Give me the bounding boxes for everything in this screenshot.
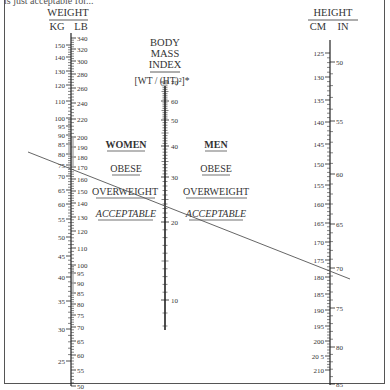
- height-in-tick-label: 70: [336, 265, 344, 273]
- weight-kg-tick-label: 50: [58, 234, 66, 242]
- weight-lb-tick-label: 120: [77, 228, 88, 236]
- weight-lb-tick-label: 140: [77, 200, 88, 208]
- height-cm-scale: 1251301351401451501551601651701751801851…: [312, 50, 330, 375]
- weight-kg-tick-label: 85: [58, 141, 66, 149]
- weight-lb-tick-label: 320: [77, 46, 88, 54]
- weight-kg-tick-label: 130: [55, 68, 66, 76]
- height-in-tick-label: 75: [336, 305, 344, 313]
- height-cm-tick-label: 210: [314, 367, 325, 375]
- weight-lb-tick-label: 90: [77, 280, 85, 288]
- weight-kg-tick-label: 25: [58, 358, 66, 366]
- weight-kg-tick-label: 30: [58, 326, 66, 334]
- height-cm-tick-label: 150: [314, 161, 325, 169]
- height-cm-tick-label: 190: [314, 307, 325, 315]
- weight-lb-tick-label: 80: [77, 301, 85, 309]
- weight-lb-tick-label: 50: [77, 383, 85, 390]
- weight-lb-tick-label: 60: [77, 352, 85, 360]
- bmi-title-line-2: MASS: [151, 48, 180, 59]
- weight-lb-tick-label: 70: [77, 324, 85, 332]
- weight-kg-tick-label: 70: [58, 173, 66, 181]
- height-cm-tick-label: 200: [314, 338, 325, 346]
- height-cm-tick-label: 185: [314, 291, 325, 299]
- bmi-tick-label: 10: [171, 297, 179, 305]
- weight-kg-tick-label: 100: [55, 115, 66, 123]
- weight-kg-tick-label: 90: [58, 132, 66, 140]
- women-overweight: OVERWEIGHT: [92, 186, 158, 197]
- bmi-header: BODY MASS INDEX [WT / (HT)²]*: [135, 37, 190, 87]
- weight-kg-tick-label: 95: [58, 123, 66, 131]
- weight-header: WEIGHT KG LB: [47, 7, 89, 32]
- weight-lb-tick-label: 300: [77, 58, 88, 66]
- weight-title: WEIGHT: [47, 7, 89, 18]
- height-cm-tick-label: 145: [314, 141, 325, 149]
- bmi-tick-label: 70: [171, 79, 179, 87]
- weight-lb-tick-label: 110: [77, 245, 88, 253]
- weight-kg-tick-label: 80: [58, 151, 66, 159]
- weight-lb-tick-label: 340: [77, 35, 88, 43]
- weight-lb-tick-label: 170: [77, 164, 88, 172]
- height-in-tick-label: 55: [336, 118, 344, 126]
- height-in-scale: 5055606570758085: [330, 59, 344, 389]
- weight-lb-label: LB: [74, 21, 87, 32]
- bmi-formula: [WT / (HT)²]*: [135, 76, 190, 87]
- weight-kg-tick-label: 150: [55, 42, 66, 50]
- bmi-nomogram: WEIGHT KG LB 150140130120110100959085807…: [0, 0, 390, 390]
- women-title: WOMEN: [105, 139, 147, 150]
- weight-lb-tick-label: 130: [77, 214, 88, 222]
- height-in-tick-label: 50: [336, 59, 344, 67]
- height-title: HEIGHT: [313, 7, 353, 18]
- height-in-tick-label: 65: [336, 221, 344, 229]
- women-obese: OBESE: [110, 163, 142, 174]
- weight-lb-tick-label: 150: [77, 188, 88, 196]
- height-in-tick-label: 85: [336, 381, 344, 389]
- weight-kg-tick-label: 45: [58, 253, 66, 261]
- height-cm-tick-label: 155: [314, 182, 325, 190]
- height-in-label: IN: [337, 21, 348, 32]
- height-cm-tick-label: 130: [314, 74, 325, 82]
- bmi-tick-label: 20: [171, 219, 179, 227]
- height-cm-tick-label: 165: [314, 220, 325, 228]
- height-header: HEIGHT CM IN: [308, 7, 358, 32]
- men-title: MEN: [204, 139, 228, 150]
- weight-lb-tick-label: 220: [77, 116, 88, 124]
- height-in-tick-label: 80: [336, 344, 344, 352]
- height-cm-tick-label: 195: [314, 323, 325, 331]
- height-cm-tick-label: 175: [314, 257, 325, 265]
- weight-lb-tick-label: 240: [77, 100, 88, 108]
- weight-lb-tick-label: 200: [77, 134, 88, 142]
- bmi-title-line-3: INDEX: [149, 59, 182, 70]
- weight-lb-scale: 3403203002802602402202001901801701601501…: [71, 35, 88, 390]
- weight-lb-tick-label: 190: [77, 144, 88, 152]
- weight-kg-tick-label: 110: [55, 98, 66, 106]
- women-acceptable: ACCEPTABLE: [95, 208, 156, 219]
- weight-lb-tick-label: 55: [77, 367, 85, 375]
- height-cm-tick-label: 170: [314, 239, 325, 247]
- weight-kg-scale: 1501401301201101009590858075706560555045…: [55, 42, 72, 366]
- weight-kg-tick-label: 55: [58, 216, 66, 224]
- bmi-tick-label: 50: [171, 117, 179, 125]
- weight-lb-tick-label: 260: [77, 85, 88, 93]
- weight-kg-tick-label: 35: [58, 298, 66, 306]
- bmi-scale: 70605040302010: [161, 79, 179, 327]
- women-categories: WOMEN OBESE OVERWEIGHT ACCEPTABLE: [92, 139, 158, 220]
- height-cm-tick-label: 160: [314, 201, 325, 209]
- weight-lb-tick-label: 75: [77, 312, 85, 320]
- weight-lb-tick-label: 100: [77, 262, 88, 270]
- weight-kg-tick-label: 120: [55, 82, 66, 90]
- height-cm-tick-label: 20 5: [312, 353, 325, 361]
- weight-lb-tick-label: 180: [77, 154, 88, 162]
- weight-kg-tick-label: 40: [58, 274, 66, 282]
- weight-kg-label: KG: [49, 21, 65, 32]
- weight-kg-tick-label: 140: [55, 54, 66, 62]
- height-cm-tick-label: 140: [314, 119, 325, 127]
- weight-lb-tick-label: 160: [77, 176, 88, 184]
- height-cm-tick-label: 125: [314, 50, 325, 58]
- weight-kg-tick-label: 60: [58, 201, 66, 209]
- weight-lb-tick-label: 280: [77, 71, 88, 79]
- bmi-tick-label: 40: [171, 143, 179, 151]
- men-overweight: OVERWEIGHT: [183, 186, 249, 197]
- bmi-title-line-1: BODY: [150, 37, 180, 48]
- height-cm-tick-label: 135: [314, 97, 325, 105]
- bmi-tick-label: 30: [171, 174, 179, 182]
- height-in-tick-label: 60: [336, 171, 344, 179]
